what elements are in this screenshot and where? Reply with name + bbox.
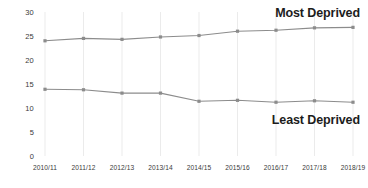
- x-axis-tick-2014-15: 2014/15: [187, 164, 212, 171]
- x-axis-tick-2018-19: 2018/19: [341, 164, 366, 171]
- x-axis-tick-2017-18: 2017/18: [302, 164, 327, 171]
- x-axis-tick-2010-11: 2010/11: [33, 164, 57, 171]
- x-axis-tick-2013-14: 2013/14: [148, 164, 173, 171]
- x-axis-tick-2012-13: 2012/13: [110, 164, 135, 171]
- series-label-most-deprived: Most Deprived: [275, 6, 360, 20]
- series-label-least-deprived: Least Deprived: [272, 113, 360, 127]
- x-axis-tick-2011-12: 2011/12: [71, 164, 95, 171]
- x-axis-tick-2015-16: 2015/16: [225, 164, 250, 171]
- line-chart: 051015202530 2010/112011/122012/132013/1…: [0, 0, 368, 188]
- x-axis-tick-2016-17: 2016/17: [264, 164, 289, 171]
- x-axis-tick-labels: 2010/112011/122012/132013/142014/152015/…: [0, 0, 368, 188]
